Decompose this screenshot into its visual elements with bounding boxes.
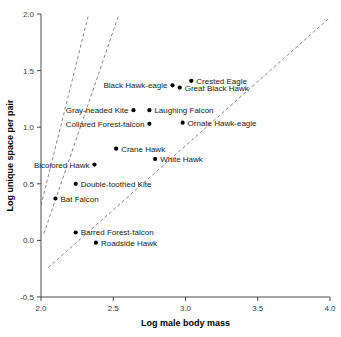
data-point <box>74 230 78 234</box>
data-point-label: Gray-headed Kite <box>66 106 129 115</box>
data-point-label: Roadside Hawk <box>101 239 158 248</box>
y-tick-label: 1.5 <box>23 67 35 76</box>
data-point <box>147 122 151 126</box>
data-point <box>178 85 182 89</box>
x-tick-label: 4.0 <box>324 304 336 313</box>
data-point <box>170 83 174 87</box>
data-point-label: Collared Forest-falcon <box>66 120 145 129</box>
data-point-label: Bat Falcon <box>60 195 98 204</box>
data-point-label: Laughing Falcon <box>154 106 213 115</box>
data-point-label: Bicolored Hawk <box>34 161 91 170</box>
x-axis-title: Log male body mass <box>141 318 230 328</box>
data-point <box>131 108 135 112</box>
y-axis-title: Log unique space per pair <box>5 99 15 212</box>
y-tick-label: 0.5 <box>23 180 35 189</box>
y-tick-label: 2.0 <box>23 10 35 19</box>
data-point <box>53 196 57 200</box>
data-point <box>94 241 98 245</box>
data-point <box>153 157 157 161</box>
data-point <box>147 108 151 112</box>
data-point <box>92 162 96 166</box>
x-tick-label: 3.5 <box>252 304 264 313</box>
x-tick-label: 3.0 <box>180 304 192 313</box>
y-tick-label: -0.5 <box>20 293 34 302</box>
data-point-label: White Hawk <box>160 155 204 164</box>
scatter-plot-figure: -0.50.00.51.01.52.02.02.53.03.54.0Log ma… <box>0 0 341 337</box>
data-point-label: Double-toothed Kite <box>81 180 152 189</box>
x-tick-label: 2.5 <box>108 304 120 313</box>
data-point <box>114 147 118 151</box>
data-point <box>74 182 78 186</box>
data-point-label: Great Black Hawk <box>185 84 250 93</box>
data-point-label: Ornate Hawk-eagle <box>188 119 257 128</box>
data-point-label: Black Hawk-eagle <box>103 81 168 90</box>
data-point-label: Barred Forest-falcon <box>81 228 154 237</box>
y-tick-label: 0.0 <box>23 236 35 245</box>
y-tick-label: 1.0 <box>23 123 35 132</box>
data-point-label: Crane Hawk <box>121 145 166 154</box>
x-tick-label: 2.0 <box>35 304 47 313</box>
chart-canvas: -0.50.00.51.01.52.02.02.53.03.54.0Log ma… <box>0 0 341 337</box>
data-point <box>181 121 185 125</box>
data-point <box>189 79 193 83</box>
